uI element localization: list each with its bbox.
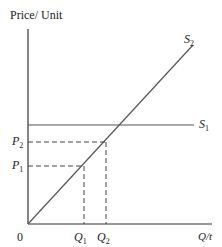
x-axis-label: Q/t	[198, 230, 212, 242]
s2-label: S2	[184, 32, 194, 48]
origin-label: 0	[17, 230, 23, 245]
p2-label: P2	[12, 134, 23, 150]
q2-label: Q2	[97, 230, 110, 246]
y-axis-label: Price/ Unit	[10, 8, 62, 23]
p1-label: P1	[12, 158, 23, 174]
q1-label: Q1	[74, 230, 87, 246]
s1-label: S1	[199, 117, 209, 133]
s2-curve	[28, 45, 193, 224]
